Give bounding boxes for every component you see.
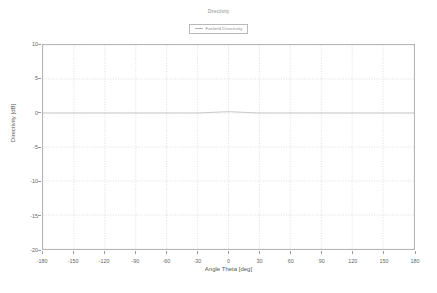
x-tick-mark — [228, 251, 229, 254]
y-axis-title: Directivity [dB] — [10, 78, 16, 168]
x-tick-mark — [104, 251, 105, 254]
y-tick-mark — [38, 112, 41, 113]
y-tick-label: -15 — [30, 213, 38, 219]
legend-item-label: Farfield Directivity — [206, 26, 243, 32]
x-tick-mark — [352, 251, 353, 254]
x-tick-mark — [197, 251, 198, 254]
legend-item[interactable]: Farfield Directivity — [195, 26, 243, 32]
x-tick-label: 30 — [257, 258, 263, 264]
y-tick-mark — [38, 215, 41, 216]
plot-area[interactable] — [42, 44, 415, 250]
x-tick-mark — [259, 251, 260, 254]
y-tick-mark — [38, 78, 41, 79]
x-tick-label: -150 — [68, 258, 79, 264]
x-tick-label: 150 — [379, 258, 388, 264]
x-tick-label: -90 — [131, 258, 139, 264]
x-tick-mark — [135, 251, 136, 254]
x-tick-label: 180 — [411, 258, 420, 264]
x-tick-label: -120 — [99, 258, 110, 264]
x-tick-mark — [73, 251, 74, 254]
x-tick-mark — [383, 251, 384, 254]
y-tick-label: -10 — [30, 178, 38, 184]
x-axis-title: Angle Theta [deg] — [42, 266, 415, 272]
x-axis-ticks: -180-150-120-90-60-300306090120150180 — [42, 254, 415, 264]
x-tick-label: 120 — [348, 258, 357, 264]
y-tick-mark — [38, 181, 41, 182]
x-tick-mark — [166, 251, 167, 254]
legend-color-swatch — [195, 28, 203, 29]
x-tick-label: 0 — [227, 258, 230, 264]
y-axis-ticks: 1050-5-10-15-20 — [0, 44, 38, 250]
x-tick-mark — [321, 251, 322, 254]
y-tick-label: -20 — [30, 247, 38, 253]
series-farfield-directivity — [43, 45, 414, 249]
x-tick-mark — [290, 251, 291, 254]
x-tick-label: -180 — [37, 258, 48, 264]
x-tick-label: -60 — [162, 258, 170, 264]
x-tick-label: 90 — [319, 258, 325, 264]
chart-title: Directivity — [0, 8, 437, 15]
x-tick-mark — [42, 251, 43, 254]
legend-block: Directivity Farfield Directivity — [0, 8, 437, 34]
legend-box[interactable]: Farfield Directivity — [189, 24, 249, 34]
y-tick-mark — [38, 147, 41, 148]
y-tick-mark — [38, 44, 41, 45]
x-tick-label: -30 — [194, 258, 202, 264]
x-tick-mark — [415, 251, 416, 254]
x-tick-label: 60 — [288, 258, 294, 264]
